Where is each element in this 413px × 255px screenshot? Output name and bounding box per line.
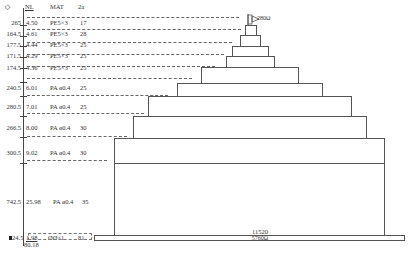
row-mat: PA ø0.4 <box>53 198 73 205</box>
nl-column-header: NL <box>25 3 34 10</box>
row-nl: 6.01 <box>26 84 37 91</box>
guide-line <box>27 54 224 55</box>
elevation-column-icon: ◇ <box>5 3 10 10</box>
guide-line <box>27 29 241 30</box>
row-elevation: 266.5 <box>0 124 21 131</box>
row-thickness: 30 <box>80 149 87 156</box>
row-elevation: 265 <box>0 19 21 26</box>
guide-line <box>27 42 232 43</box>
row-elevation: 300.5 <box>0 149 21 156</box>
flag-label: 280Ω <box>257 15 270 22</box>
layer-7 <box>148 96 352 117</box>
row-elevation: 742.5 <box>0 198 21 205</box>
layer-8 <box>133 116 367 139</box>
row-nl: 25.98 <box>26 198 41 205</box>
bottom-sub-label: 80.18 <box>24 241 39 248</box>
row-nl: 4.50 <box>26 19 37 26</box>
row-elevation: 164.5 <box>0 30 21 37</box>
base-width-label: 11520 <box>230 228 290 235</box>
layer-9 <box>114 138 385 164</box>
row-mat: PE5×3 <box>50 19 68 26</box>
row-mat: PA ø0.4 <box>50 84 70 91</box>
guide-line <box>27 95 168 96</box>
row-elevation: 280.5 <box>0 103 21 110</box>
row-nl: 7.01 <box>26 103 37 110</box>
row-nl: 4.61 <box>26 30 37 37</box>
base-resistance-label: 5760Ω <box>230 235 290 242</box>
row-elevation: 174.5 <box>0 64 21 71</box>
guide-line <box>27 66 215 67</box>
layer-10 <box>114 163 385 236</box>
axis-tick <box>20 82 27 83</box>
row-elevation: 240.5 <box>0 84 21 91</box>
row-nl: 9.02 <box>26 149 37 156</box>
row-thickness: 35 <box>82 198 89 205</box>
row-thickness: 25 <box>80 84 87 91</box>
axis-tick <box>20 163 27 164</box>
row-elevation: 171.5 <box>0 52 21 59</box>
guide-line <box>27 17 239 18</box>
row-mat: PA ø0.4 <box>50 103 70 110</box>
row-mat: PA ø0.4 <box>50 149 70 156</box>
axis-tick <box>20 116 27 117</box>
layer-6 <box>177 83 323 97</box>
row-mat: PA ø0.4 <box>50 124 70 131</box>
bottom-row-dashed-box <box>28 233 92 240</box>
axis-tick <box>20 96 27 97</box>
axis-tick <box>20 137 27 138</box>
bottom-elevation: 24.5 <box>12 234 23 241</box>
row-thickness: 28 <box>80 30 87 37</box>
mat-column-header: MAT <box>50 3 64 10</box>
row-thickness: 17 <box>80 19 87 26</box>
row-nl: 8.00 <box>26 124 37 131</box>
guide-line <box>27 136 127 137</box>
row-thickness: 25 <box>80 103 87 110</box>
elevation-axis <box>23 8 24 246</box>
guide-line <box>27 160 107 161</box>
layer-5 <box>201 67 299 84</box>
row-thickness: 30 <box>80 124 87 131</box>
guide-line <box>27 78 192 79</box>
row-mat: PE5×3 <box>50 30 68 37</box>
thickness-column-header: 2a <box>78 3 84 10</box>
row-elevation: 177.5 <box>0 41 21 48</box>
guide-line <box>27 113 144 114</box>
